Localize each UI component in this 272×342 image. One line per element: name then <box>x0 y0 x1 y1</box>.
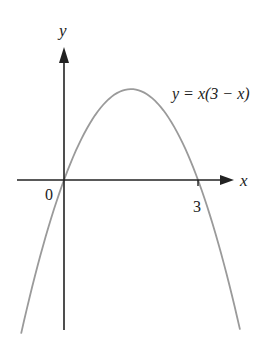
equation-text: y = x(3 − x) <box>170 85 250 103</box>
equation-label: y = x(3 − x) <box>170 85 250 103</box>
x-intercept-label: 3 <box>193 198 201 215</box>
origin-label: 0 <box>45 186 53 203</box>
y-axis-arrow-icon <box>59 47 69 63</box>
parabola-curve <box>21 89 240 333</box>
plot-canvas: y x 0 3 y = x(3 − x) <box>0 0 272 342</box>
parabola-figure: y x 0 3 y = x(3 − x) <box>0 0 272 342</box>
x-axis-arrow-icon <box>220 175 234 185</box>
x-axis-label: x <box>239 171 248 190</box>
y-axis-label: y <box>57 21 67 40</box>
